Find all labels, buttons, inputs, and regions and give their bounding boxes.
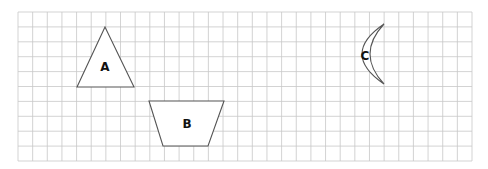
grid-diagram: A B C bbox=[0, 0, 488, 169]
triangle-a-label: A bbox=[100, 60, 110, 74]
crescent-c-label: C bbox=[361, 49, 370, 63]
trapezoid-b-label: B bbox=[182, 117, 191, 131]
